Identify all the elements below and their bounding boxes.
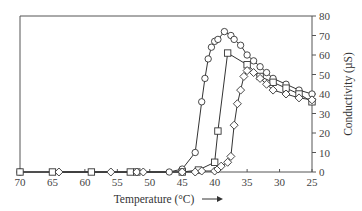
y-tick-label: 50 bbox=[319, 69, 331, 81]
circle-marker-icon bbox=[250, 58, 256, 64]
y-tick-label: 0 bbox=[319, 166, 325, 178]
x-axis-arrow-icon bbox=[202, 196, 223, 202]
diamond-marker-icon bbox=[233, 100, 241, 108]
square-marker-icon bbox=[17, 169, 23, 175]
conductivity-chart: 70656055504540353025 01020304050607080 T… bbox=[0, 0, 362, 211]
circle-marker-icon bbox=[257, 63, 263, 69]
square-marker-icon bbox=[224, 50, 230, 56]
circles-series-line bbox=[20, 32, 312, 172]
circle-marker-icon bbox=[263, 69, 269, 75]
circle-marker-icon bbox=[192, 149, 198, 155]
diamond-marker-icon bbox=[107, 168, 115, 176]
circle-marker-icon bbox=[215, 36, 221, 42]
circle-marker-icon bbox=[237, 42, 243, 48]
y-tick-label: 30 bbox=[319, 108, 331, 120]
diamond-marker-icon bbox=[230, 121, 238, 129]
x-tick-label: 65 bbox=[47, 176, 59, 188]
x-tick-label: 55 bbox=[112, 176, 124, 188]
series-lines bbox=[20, 32, 312, 172]
circle-marker-icon bbox=[205, 56, 211, 62]
x-tick-label: 30 bbox=[274, 176, 286, 188]
circle-marker-icon bbox=[231, 36, 237, 42]
square-marker-icon bbox=[88, 169, 94, 175]
circle-marker-icon bbox=[244, 52, 250, 58]
y-tick-label: 10 bbox=[319, 147, 331, 159]
x-tick-label: 70 bbox=[15, 176, 27, 188]
circle-marker-icon bbox=[198, 99, 204, 105]
diamond-marker-icon bbox=[237, 86, 245, 94]
plot-frame bbox=[20, 16, 312, 172]
x-tick-label: 40 bbox=[209, 176, 221, 188]
circle-marker-icon bbox=[221, 28, 227, 34]
y-tick-label: 70 bbox=[319, 30, 331, 42]
y-tick-label: 60 bbox=[319, 49, 331, 61]
diamond-marker-icon bbox=[55, 168, 63, 176]
y-axis-title: Conductivity (µS) bbox=[342, 52, 355, 136]
y-tick-label: 20 bbox=[319, 127, 331, 139]
diamond-marker-icon bbox=[139, 168, 147, 176]
x-tick-label: 60 bbox=[79, 176, 91, 188]
circle-marker-icon bbox=[202, 75, 208, 81]
x-axis-title: Temperature (°C) bbox=[114, 193, 195, 206]
circle-marker-icon bbox=[166, 169, 172, 175]
x-tick-label: 45 bbox=[177, 176, 189, 188]
series-markers bbox=[17, 28, 316, 176]
x-tick-label: 50 bbox=[144, 176, 156, 188]
circle-marker-icon bbox=[208, 44, 214, 50]
square-marker-icon bbox=[211, 159, 217, 165]
x-tick-label: 35 bbox=[242, 176, 254, 188]
square-marker-icon bbox=[215, 128, 221, 134]
y-tick-label: 80 bbox=[319, 10, 331, 22]
y-tick-label: 40 bbox=[319, 88, 331, 100]
x-tick-label: 25 bbox=[307, 176, 319, 188]
